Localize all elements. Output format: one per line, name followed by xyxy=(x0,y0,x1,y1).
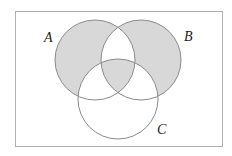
label-b: B xyxy=(184,29,193,44)
label-c: C xyxy=(157,122,167,137)
venn-diagram: A B C xyxy=(0,0,232,156)
label-a: A xyxy=(43,30,53,45)
